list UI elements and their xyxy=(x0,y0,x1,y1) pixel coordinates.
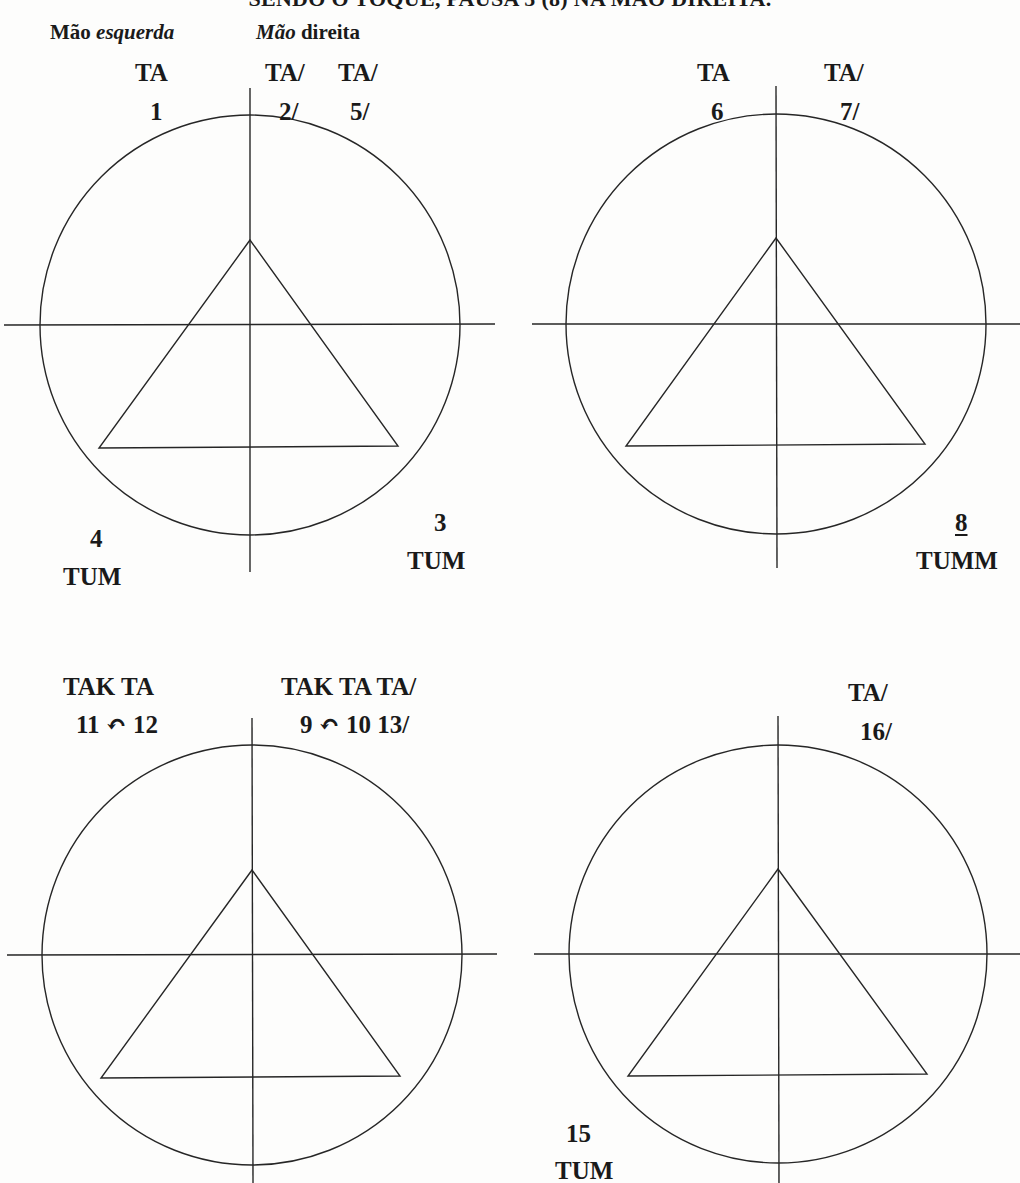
triangle xyxy=(99,240,398,448)
syllable-label: TA/ xyxy=(824,60,864,85)
syllable-label: TA xyxy=(697,60,730,85)
diagram-canvas xyxy=(0,0,1020,1183)
count-label: 3 xyxy=(434,510,447,535)
diagram-3 xyxy=(7,718,497,1183)
triangle xyxy=(626,238,925,446)
count-label: 1 xyxy=(150,99,163,124)
horizontal-axis xyxy=(7,954,497,955)
syllable-label: TA/ xyxy=(265,60,305,85)
count-label: 7/ xyxy=(840,99,859,124)
rhythm-diagram-page: SENDO O TOQUE, PAUSA 5 (8) NA MÃO DIREIT… xyxy=(0,0,1020,1183)
diagram-2 xyxy=(532,86,1020,568)
count-label: 5/ xyxy=(350,99,369,124)
count-label: 15 xyxy=(566,1121,591,1146)
triangle xyxy=(628,869,927,1076)
syllable-label: TA/ xyxy=(848,680,888,705)
vertical-axis xyxy=(252,718,253,1183)
syllable-label: TUM xyxy=(555,1158,613,1183)
count-label: 16/ xyxy=(860,719,892,744)
syllable-label: TAK TA TA/ xyxy=(281,674,416,699)
count-label-with-arrow: 9 ↶ 10 13/ xyxy=(300,712,409,737)
count-label: 6 xyxy=(711,99,724,124)
syllable-label: TUM xyxy=(407,548,465,573)
triangle xyxy=(101,870,400,1078)
vertical-axis xyxy=(776,86,777,568)
syllable-label: TAK TA xyxy=(63,674,154,699)
diagram-1 xyxy=(4,88,495,572)
count-label: 2/ xyxy=(279,99,298,124)
count-label: 4 xyxy=(90,526,103,551)
syllable-label: TUM xyxy=(63,564,121,589)
count-label-with-arrow: 11 ↶ 12 xyxy=(76,712,158,737)
horizontal-axis xyxy=(4,324,495,325)
syllable-label: TUMM xyxy=(916,548,998,573)
diagram-4 xyxy=(534,716,1020,1183)
vertical-axis xyxy=(778,716,779,1183)
count-label-underlined: 8 xyxy=(955,510,968,535)
syllable-label: TA/ xyxy=(338,60,378,85)
syllable-label: TA xyxy=(135,60,168,85)
